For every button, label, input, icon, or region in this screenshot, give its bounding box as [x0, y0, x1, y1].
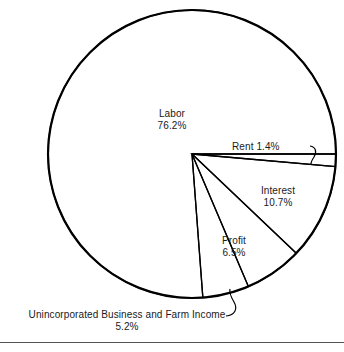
bottom-divider: [0, 342, 344, 343]
slice-label-interest-value: 10.7%: [240, 197, 316, 209]
slice-label-unincorporated-value: 5.2%: [8, 321, 246, 333]
slice-label-profit-value: 6.5%: [203, 247, 265, 259]
slice-label-unincorporated-name: Unincorporated Business and Farm Income: [8, 309, 246, 321]
slice-label-rent-value: 1.4%: [256, 141, 279, 152]
slice-label-labor-value: 76.2%: [128, 120, 216, 132]
slice-label-profit: Profit 6.5%: [203, 235, 265, 259]
slice-label-rent: Rent 1.4%: [232, 141, 310, 153]
slice-label-interest: Interest 10.7%: [240, 185, 316, 209]
slice-label-interest-name: Interest: [240, 185, 316, 197]
pie-chart-figure: Labor 76.2% Rent 1.4% Interest 10.7% Pro…: [0, 0, 344, 352]
slice-label-labor-name: Labor: [128, 108, 216, 120]
slice-label-profit-name: Profit: [203, 235, 265, 247]
slice-label-labor: Labor 76.2%: [128, 108, 216, 132]
slice-label-unincorporated: Unincorporated Business and Farm Income …: [8, 309, 246, 333]
pie-chart-graphic: [0, 0, 344, 352]
slice-label-rent-name: Rent: [232, 141, 254, 152]
pie-slices: [48, 10, 336, 298]
